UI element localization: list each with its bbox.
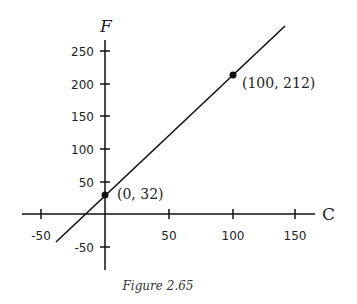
chart: -50 50 100 150 250 200 150 100 50 -50 F … xyxy=(0,0,357,304)
x-tick-label: 150 xyxy=(284,229,307,243)
y-tick-label: 250 xyxy=(71,45,94,59)
y-tick-label: 50 xyxy=(79,176,94,190)
data-point xyxy=(230,72,237,79)
x-tick-label: 100 xyxy=(222,229,245,243)
x-tick-label: -50 xyxy=(31,229,51,243)
y-tick-label: -50 xyxy=(74,241,94,255)
figure-caption: Figure 2.65 xyxy=(122,279,194,293)
y-tick-label: 100 xyxy=(71,143,94,157)
x-axis-label: C xyxy=(322,204,335,224)
point-label: (0, 32) xyxy=(117,186,164,202)
data-point xyxy=(102,192,109,199)
point-label: (100, 212) xyxy=(242,75,315,91)
x-tick-label: 50 xyxy=(161,229,176,243)
y-tick-label: 200 xyxy=(71,78,94,92)
y-tick-label: 150 xyxy=(71,110,94,124)
y-axis-label: F xyxy=(99,16,113,36)
